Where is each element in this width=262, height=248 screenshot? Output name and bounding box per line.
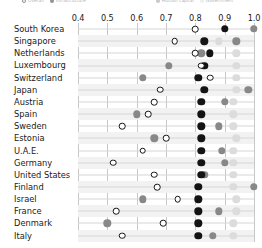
data-point-infrastructure[interactable] [195,220,202,227]
data-point-overall[interactable] [139,147,146,154]
data-point-human-capital[interactable] [218,147,225,154]
data-point-overall[interactable] [110,159,117,166]
data-point-human-capital[interactable] [250,183,257,190]
data-point-infrastructure[interactable] [197,98,204,105]
data-point-overall[interactable] [154,184,161,191]
plot-row [78,84,254,96]
category-label: Estonia [14,132,71,144]
plot-row [78,169,254,181]
data-point-overall[interactable] [163,135,170,142]
data-point-government[interactable] [233,74,240,81]
legend-swatch-icon [200,0,204,3]
category-label: Finland [14,181,71,193]
category-label: Japan [14,84,71,96]
row-connector-line [78,174,254,175]
legend-swatch-icon [22,0,26,3]
plot-row [78,230,254,242]
row-connector-line [78,235,254,236]
data-point-government[interactable] [230,98,237,105]
row-connector-line [78,41,254,42]
category-label: Germany [14,157,71,169]
data-point-overall[interactable] [174,196,181,203]
plot-row [78,96,254,108]
row-connector-line [78,53,254,54]
row-connector-line [78,126,254,127]
legend-item-human-capital[interactable]: Human capital [156,0,194,3]
legend-item-label: Government [206,0,233,3]
category-label: Luxembourg [14,59,71,71]
legend-item-overall[interactable]: Overall [22,0,44,3]
category-label: United States [14,169,71,181]
category-label: U.A.E. [14,145,71,157]
data-point-overall[interactable] [151,172,158,179]
plot-row [78,47,254,59]
data-point-overall[interactable] [207,74,214,81]
data-point-overall[interactable] [113,208,120,215]
plot-row [78,217,254,229]
x-tick-label: 0.5 [101,13,114,23]
data-point-human-capital[interactable] [215,123,222,130]
category-label: Italy [14,230,71,242]
plot-row [78,145,254,157]
data-point-infrastructure[interactable] [195,74,202,81]
row-connector-line [78,199,254,200]
data-point-overall[interactable] [160,220,167,227]
data-point-infrastructure[interactable] [206,50,213,57]
category-label: Denmark [14,217,71,229]
x-tick-label: 0.8 [189,13,202,23]
plot-row [78,157,254,169]
data-point-infrastructure[interactable] [195,195,202,202]
plot-row [78,108,254,120]
plot-row [78,132,254,144]
data-point-overall[interactable] [198,62,205,69]
row-connector-line [78,77,254,78]
legend-item-government[interactable]: Government [200,0,233,3]
plot-row [78,23,254,35]
plot-row [78,120,254,132]
category-label: Singapore [14,35,71,47]
dot-plot-chart: OverallInfrastructureHuman capitalGovern… [0,0,262,248]
data-point-overall[interactable] [157,87,164,94]
category-label: Sweden [14,120,71,132]
data-point-government[interactable] [230,220,237,227]
data-point-government[interactable] [233,195,240,202]
data-point-government[interactable] [230,147,237,154]
row-connector-line [78,211,254,212]
category-axis-labels: South KoreaSingaporeNetherlandsLuxembour… [0,23,76,242]
category-label: Austria [14,96,71,108]
data-point-infrastructure[interactable] [197,147,204,154]
plot-row [78,205,254,217]
legend-item-label: Infrastructure [56,0,86,3]
data-point-government[interactable] [233,50,240,57]
data-point-overall[interactable] [172,38,179,45]
data-point-overall[interactable] [192,26,199,33]
data-point-human-capital[interactable] [221,98,228,105]
data-point-human-capital[interactable] [104,220,111,227]
data-point-human-capital[interactable] [139,74,146,81]
x-tick-label: 0.6 [130,13,143,23]
data-point-government[interactable] [230,123,237,130]
category-label: Israel [14,193,71,205]
x-tick-label: 0.4 [72,13,85,23]
legend-item-infrastructure[interactable]: Infrastructure [50,0,86,3]
x-tick-label: 1.0 [248,13,261,23]
data-point-human-capital[interactable] [139,195,146,202]
row-connector-line [78,187,254,188]
data-point-infrastructure[interactable] [197,123,204,130]
gridline [254,23,255,242]
data-point-overall[interactable] [151,99,158,106]
chart-legend: OverallInfrastructureHuman capitalGovern… [0,0,262,5]
data-point-overall[interactable] [145,111,152,118]
legend-item-label: Human capital [162,0,194,3]
data-point-human-capital[interactable] [250,25,257,32]
category-label: Spain [14,108,71,120]
category-label: Netherlands [14,47,71,59]
data-point-overall[interactable] [192,50,199,57]
legend-item-label: Overall [28,0,44,3]
data-point-overall[interactable] [119,123,126,130]
data-point-infrastructure[interactable] [221,25,228,32]
data-point-overall[interactable] [119,232,126,239]
plot-row [78,193,254,205]
data-point-government[interactable] [230,171,237,178]
plot-row [78,59,254,71]
